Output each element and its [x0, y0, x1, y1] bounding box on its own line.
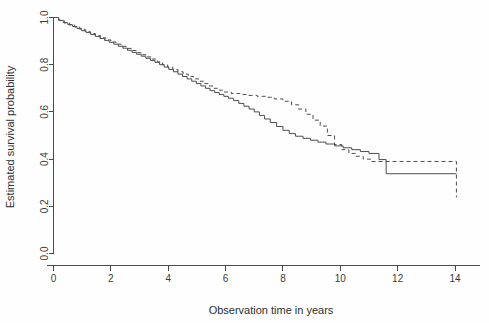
x-tick-label: 0: [51, 273, 57, 284]
y-tick-label: 0.0: [39, 246, 50, 260]
x-tick-label: 8: [280, 273, 286, 284]
x-axis: 02468101214: [47, 266, 481, 284]
x-tick-label: 12: [392, 273, 404, 284]
y-tick-label: 0.6: [39, 105, 50, 119]
series-container: [54, 18, 457, 198]
y-tick-label: 0.2: [39, 199, 50, 213]
chart-canvas: 0.00.20.40.60.81.0 02468101214 Observati…: [0, 0, 489, 323]
y-axis: 0.00.20.40.60.81.0: [39, 10, 54, 260]
x-tick-label: 10: [335, 273, 347, 284]
x-tick-label: 6: [223, 273, 229, 284]
survival-plot: 0.00.20.40.60.81.0 02468101214 Observati…: [0, 0, 489, 323]
x-tick-label: 2: [108, 273, 114, 284]
y-tick-label: 0.8: [39, 57, 50, 71]
x-tick-label: 14: [449, 273, 461, 284]
series-solid-line: [54, 18, 457, 174]
y-tick-label: 0.4: [39, 152, 50, 166]
y-tick-label: 1.0: [39, 10, 50, 24]
x-axis-title: Observation time in years: [209, 304, 334, 316]
x-tick-label: 4: [165, 273, 171, 284]
y-axis-title: Estimated survival probability: [4, 65, 16, 208]
